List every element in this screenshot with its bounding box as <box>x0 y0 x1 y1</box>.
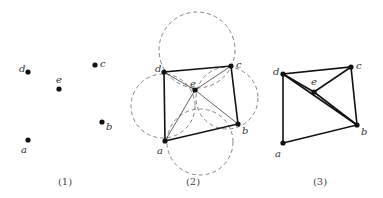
edge-e-b <box>314 92 357 125</box>
edge-e-a <box>165 90 195 141</box>
edge-e-c <box>195 66 231 90</box>
convex-hull <box>164 66 238 141</box>
label-d: d <box>273 66 279 77</box>
point-b <box>99 119 104 124</box>
label-b: b <box>106 121 112 132</box>
point-d <box>25 69 30 74</box>
panel-3-triangulation: a b c d e (3) <box>273 60 367 187</box>
point-e <box>56 86 61 91</box>
edge-d-e <box>283 74 314 92</box>
label-c: c <box>236 59 242 70</box>
delaunay-diagram: a b c d e (1) a b c d e (2) <box>0 0 383 198</box>
convex-hull <box>283 67 357 143</box>
circumcircle-dce <box>159 12 235 88</box>
point-a <box>25 137 30 142</box>
label-b: b <box>361 126 367 137</box>
label-a: a <box>21 144 27 155</box>
label-a: a <box>275 148 281 159</box>
panel-1-point-set: a b c d e (1) <box>19 58 112 187</box>
caption-2: (2) <box>186 176 200 187</box>
point-b <box>235 121 240 126</box>
label-e: e <box>190 78 196 89</box>
label-e: e <box>311 76 317 87</box>
edge-e-b <box>195 90 238 124</box>
label-a: a <box>157 145 163 156</box>
label-c: c <box>100 58 106 69</box>
caption-1: (1) <box>58 176 72 187</box>
point-c <box>92 62 97 67</box>
point-d <box>280 71 285 76</box>
label-d: d <box>19 63 25 74</box>
point-c <box>228 63 233 68</box>
circumcircle-abe <box>167 109 233 175</box>
point-c <box>348 64 353 69</box>
label-d: d <box>155 63 161 74</box>
panel-2-circumcircles: a b c d e (2) <box>131 12 258 187</box>
point-d <box>161 69 166 74</box>
label-e: e <box>56 74 62 85</box>
label-b: b <box>242 125 248 136</box>
label-c: c <box>356 60 362 71</box>
point-e <box>311 89 316 94</box>
caption-3: (3) <box>313 176 327 187</box>
point-a <box>280 140 285 145</box>
point-b <box>354 122 359 127</box>
point-a <box>162 138 167 143</box>
